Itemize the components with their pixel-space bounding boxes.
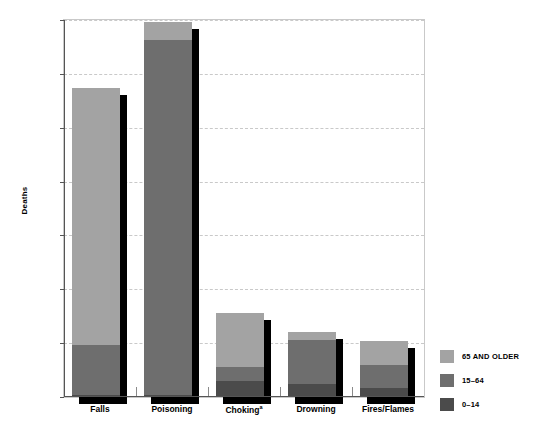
legend-swatch	[440, 350, 454, 363]
stacked-bar[interactable]	[360, 341, 408, 397]
plot-area	[63, 19, 425, 398]
y-axis-tick-mark	[60, 397, 64, 398]
bar-segment[interactable]	[360, 341, 408, 364]
legend-swatch	[440, 398, 454, 411]
bar-segment[interactable]	[288, 332, 336, 339]
stacked-bar[interactable]	[72, 88, 120, 397]
bar-segment[interactable]	[288, 340, 336, 384]
legend-label: 0–14	[462, 400, 480, 409]
x-axis-tick-label: Fires/Flames	[362, 404, 414, 414]
y-axis-line	[64, 20, 65, 397]
gridline	[64, 20, 424, 21]
legend-swatch	[440, 374, 454, 387]
bar-segment[interactable]	[288, 384, 336, 397]
x-axis-line	[64, 396, 424, 397]
footnote-marker: a	[259, 404, 262, 410]
stacked-bar[interactable]	[216, 313, 264, 397]
x-axis-tick-label: Poisoning	[151, 404, 192, 414]
bar-segment[interactable]	[216, 381, 264, 397]
stacked-bar[interactable]	[144, 22, 192, 397]
bar-segment[interactable]	[72, 345, 120, 395]
y-axis-title: Deaths	[20, 161, 29, 241]
bar-segment[interactable]	[216, 367, 264, 381]
x-axis-tick-label: Drowning	[296, 404, 335, 414]
deaths-by-cause-bar-chart: Deaths 21,00018,00015,00012,0009,0006,00…	[0, 0, 540, 428]
bar-segment[interactable]	[72, 88, 120, 345]
gridline	[64, 74, 424, 75]
x-axis-tick-label: Falls	[90, 404, 109, 414]
stacked-bar[interactable]	[288, 332, 336, 397]
legend-label: 65 AND OLDER	[462, 352, 519, 361]
x-axis-tick-label: Chokinga	[225, 404, 262, 415]
legend-label: 15–64	[462, 376, 484, 385]
bar-segment[interactable]	[360, 365, 408, 389]
bar-segment[interactable]	[144, 22, 192, 40]
bar-segment[interactable]	[144, 40, 192, 395]
bar-segment[interactable]	[216, 313, 264, 368]
